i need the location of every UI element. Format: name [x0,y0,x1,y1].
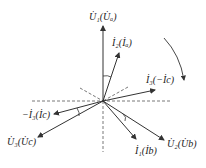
label-U2: U̇₂(U̇b) [167,139,197,149]
label-I2: İ₂(İₐ) [112,38,132,48]
label-I3: İ₃(−İc) [146,75,174,85]
phasor-U2 [103,101,164,140]
label-U1: U̇₁(U̇ₐ) [89,12,117,22]
label-U3: U̇₃(U̇c) [7,137,36,147]
label-I1: İ₁(İb) [135,146,157,156]
reference-axes [32,87,170,152]
phasor-diagram: U̇₁(U̇ₐ) İ₂(İₐ) İ₃(−İc) −İ₃(İc) U̇₃(U̇c)… [0,0,206,168]
phasor-I1 [103,101,136,139]
phasor-I3 [103,90,155,101]
angle-arcs [77,76,126,121]
label-negI3: −İ₃(İc) [22,110,50,120]
